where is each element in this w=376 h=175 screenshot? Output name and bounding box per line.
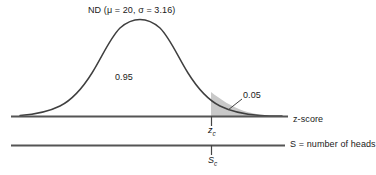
z-critical-tick-label-subscript: c [213,130,216,137]
acceptance-area-label: 0.95 [115,73,133,82]
distribution-title: ND (μ = 20, σ = 3.16) [88,6,175,15]
critical-area-label: 0.05 [243,91,261,100]
z-score-axis-label-text: -score [298,114,324,124]
s-axis-label: S = number of heads [290,140,376,149]
s-critical-tick-label-subscript: c [214,160,217,167]
z-score-axis-label: z-score [293,115,323,124]
s-axis-label-text: = number of heads [296,139,376,149]
s-critical-tick-label: Sc [208,156,217,167]
normal-curve [20,20,282,117]
z-critical-tick-label: zc [208,126,216,137]
